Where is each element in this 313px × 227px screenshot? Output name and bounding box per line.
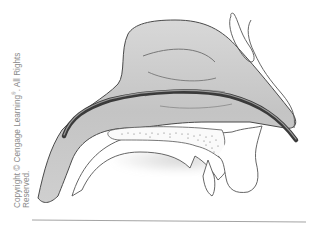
copyright-notice: Copyright © Cengage Learning®. All Right… (10, 33, 32, 208)
anatomical-illustration: Copyright © Cengage Learning®. All Right… (0, 0, 313, 227)
copyright-reserved: Reserved. (22, 171, 31, 208)
nasal-airway-diagram (0, 0, 313, 227)
copyright-text-tail: . All Rights (13, 53, 22, 92)
baseline-rule (32, 220, 306, 222)
registered-mark: ® (11, 91, 17, 95)
copyright-text: Copyright © Cengage Learning (13, 95, 22, 208)
